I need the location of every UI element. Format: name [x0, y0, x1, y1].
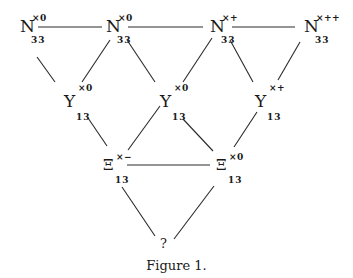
- node-subscript: 33: [117, 36, 132, 45]
- node-symbol: ?: [160, 237, 167, 250]
- node-superscript: ×0: [174, 84, 189, 93]
- edges: [0, 0, 353, 278]
- node-symbol: Y: [64, 93, 75, 110]
- edge-y2-x1: [128, 106, 160, 150]
- node-subscript: 33: [221, 36, 236, 45]
- edge-n1-y1: [37, 57, 55, 82]
- node-symbol: Ξ: [216, 158, 227, 173]
- edge-n2-y2: [127, 40, 155, 82]
- edge-n4-y3: [278, 42, 300, 80]
- node-subscript: 33: [31, 36, 46, 45]
- node-symbol: Y: [160, 93, 171, 110]
- node-symbol: Y: [255, 93, 266, 110]
- node-subscript: 33: [315, 36, 330, 45]
- edge-y1-x1: [88, 118, 107, 146]
- edge-x2-q: [174, 186, 214, 239]
- node-superscript: ×+: [222, 14, 238, 23]
- figure-caption: Figure 1.: [0, 258, 353, 273]
- edge-n3-y2: [183, 38, 212, 82]
- node-subscript: 13: [228, 176, 243, 185]
- node-superscript: ×++: [316, 14, 340, 23]
- node-superscript: ×0: [229, 153, 244, 162]
- node-superscript: ×−: [116, 153, 132, 162]
- node-superscript: ×0: [32, 14, 47, 23]
- node-superscript: ×+: [269, 84, 285, 93]
- edge-y2-x2: [183, 119, 213, 151]
- node-subscript: 13: [267, 113, 282, 122]
- node-superscript: ×0: [118, 14, 133, 23]
- node-subscript: 13: [172, 113, 187, 122]
- edge-n3-y3: [230, 40, 253, 82]
- node-superscript: ×0: [78, 84, 93, 93]
- node-symbol: Ξ: [103, 158, 114, 173]
- node-subscript: 13: [115, 176, 130, 185]
- edge-n2-y1: [82, 40, 110, 82]
- edge-y3-x2: [234, 112, 257, 147]
- edge-x1-q: [122, 187, 155, 236]
- node-subscript: 13: [76, 113, 91, 122]
